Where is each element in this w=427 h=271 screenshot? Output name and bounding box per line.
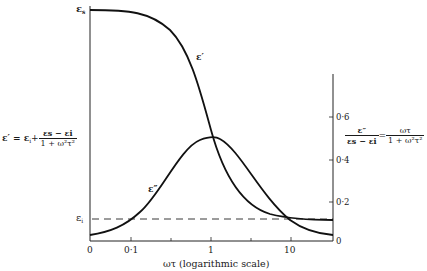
eps-double-prime-curve: [90, 137, 333, 235]
y-tick-label-0.6: 0·6: [336, 112, 350, 122]
formula-numerator: εs − εi: [39, 128, 77, 139]
formula-den2: 1 + ω²τ²: [386, 136, 424, 145]
x-tick-label-10: 10: [284, 245, 296, 255]
y-tick-label-0: 0: [336, 236, 341, 246]
formula-eq: =: [379, 131, 387, 141]
y-tick-label-0.2: 0·2: [336, 197, 350, 207]
eps-double-prime-label: ε″: [148, 184, 158, 194]
formula-den1: εs − εi: [345, 136, 379, 146]
formula-fraction: εs − εi1 + ω²τ²: [39, 128, 77, 148]
eps-i-label: εi: [76, 212, 83, 224]
eps-s-label: εs: [76, 3, 86, 15]
formula-denominator: 1 + ω²τ²: [39, 139, 77, 148]
eps-prime-label: ε′: [196, 52, 204, 62]
y-tick-label-0.4: 0·4: [336, 155, 350, 165]
right-ticks: [329, 117, 333, 202]
eps-double-prime-formula: ε″εs − εi = ωτ1 + ω²τ²: [345, 125, 424, 146]
eps-prime-curve: [90, 10, 333, 220]
x-ticks: [131, 237, 291, 241]
x-tick-label-0: 0: [87, 245, 93, 255]
x-tick-label-0.1: 0·1: [124, 245, 138, 255]
formula-plus: +: [31, 133, 39, 143]
formula-num1: ε″: [345, 125, 379, 136]
formula-num2: ωτ: [386, 126, 424, 136]
formula-ratio-left: ε″εs − εi: [345, 125, 379, 146]
x-axis-title: ωτ (logarithmic scale): [163, 258, 269, 269]
formula-lhs: ε′ = ε: [2, 133, 29, 143]
x-tick-label-1: 1: [208, 245, 214, 255]
formula-ratio-right: ωτ1 + ω²τ²: [386, 126, 424, 145]
eps-prime-formula: ε′ = εi + εs − εi1 + ω²τ²: [2, 128, 77, 148]
